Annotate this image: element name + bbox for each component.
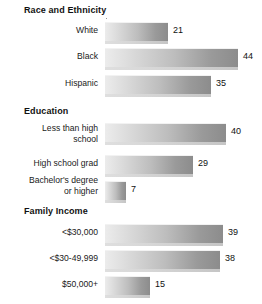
bar-track (105, 123, 226, 145)
bar-label: <$30,000 (0, 227, 98, 238)
bar-shadow (105, 67, 238, 70)
bar-shadow (105, 41, 168, 44)
bar (105, 22, 168, 41)
bar-value: 21 (173, 25, 183, 35)
bar-value: 29 (198, 158, 208, 168)
group-heading-education: Education (24, 106, 68, 116)
bar-track (105, 155, 193, 177)
bar-value: 39 (228, 227, 238, 237)
bar-track (105, 224, 223, 246)
bar-track (105, 22, 168, 44)
bar (105, 276, 150, 295)
bar-track (105, 181, 126, 203)
bar-track (105, 75, 211, 97)
bar-value: 15 (155, 279, 165, 289)
bar (105, 181, 126, 200)
bar (105, 123, 226, 142)
bar-label: Less than high school (0, 123, 98, 144)
bar-value: 38 (225, 253, 235, 263)
bar-label: White (0, 25, 98, 36)
bar-label: Black (0, 51, 98, 62)
bar-shadow (105, 295, 150, 298)
bar (105, 224, 223, 243)
bar-label-line1: Less than high (42, 123, 98, 133)
bar-label: $50,000+ (0, 279, 98, 290)
bar (105, 75, 211, 94)
bar-label-line2: or higher (64, 186, 98, 196)
bar-label-line2: school (73, 134, 98, 144)
group-heading-race-and-ethnicity: Race and Ethnicity (24, 5, 106, 15)
bar-shadow (105, 269, 220, 272)
bar-label: High school grad (0, 158, 98, 169)
bar-track (105, 250, 220, 272)
bar-label: Bachelor's degree or higher (0, 175, 98, 196)
tick-dot (106, 18, 107, 19)
bar-shadow (105, 200, 126, 203)
bar-label: <$30-49,999 (0, 253, 98, 264)
bar-value: 35 (216, 78, 226, 88)
bar-value: 40 (231, 126, 241, 136)
group-heading-family-income: Family Income (24, 206, 88, 216)
bar (105, 48, 238, 67)
bar-shadow (105, 142, 226, 145)
bar-track (105, 48, 238, 70)
bar-label: Hispanic (0, 78, 98, 89)
bar-shadow (105, 243, 223, 246)
bar-value: 44 (243, 51, 253, 61)
bar-value: 7 (131, 184, 136, 194)
bar-shadow (105, 174, 193, 177)
bar (105, 155, 193, 174)
bar-track (105, 276, 150, 298)
bar-chart: Race and Ethnicity White 21 Black 44 His… (0, 0, 262, 304)
bar-shadow (105, 94, 211, 97)
bar (105, 250, 220, 269)
bar-label-line1: Bachelor's degree (29, 175, 98, 185)
